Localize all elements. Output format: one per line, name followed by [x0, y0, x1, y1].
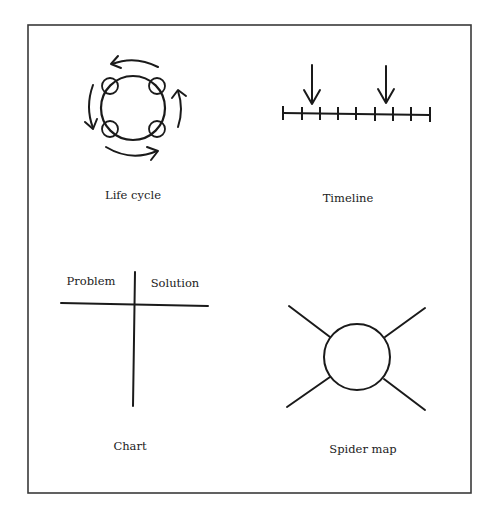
- life-cycle-figure: [85, 56, 186, 160]
- frame-border: [28, 25, 471, 493]
- chart-label: Chart: [113, 439, 147, 453]
- graphic-organizers-diagram: Life cycle Timeline Problem Solution Cha…: [0, 0, 502, 514]
- t-chart-figure: [61, 272, 208, 406]
- cycle-arrow-icon: [112, 60, 158, 67]
- spider-leg: [289, 306, 330, 337]
- cycle-arrow-icon: [178, 91, 181, 127]
- timeline-figure: [283, 65, 430, 122]
- spider-leg: [287, 377, 330, 407]
- timeline-label: Timeline: [323, 191, 374, 205]
- spider-map-figure: [287, 306, 425, 410]
- down-arrow-icon: [378, 66, 394, 103]
- t-chart-column-problem: Problem: [67, 274, 116, 288]
- spider-leg: [384, 379, 425, 410]
- cycle-arrow-icon: [89, 85, 93, 128]
- spider-leg: [385, 308, 425, 337]
- spider-map-label: Spider map: [329, 442, 396, 456]
- life-cycle-label: Life cycle: [105, 188, 161, 202]
- cycle-ring: [101, 76, 165, 140]
- t-chart-column-solution: Solution: [151, 276, 200, 290]
- down-arrow-icon: [304, 65, 320, 104]
- spider-body-circle: [324, 324, 390, 390]
- t-chart-vertical-line: [133, 272, 135, 406]
